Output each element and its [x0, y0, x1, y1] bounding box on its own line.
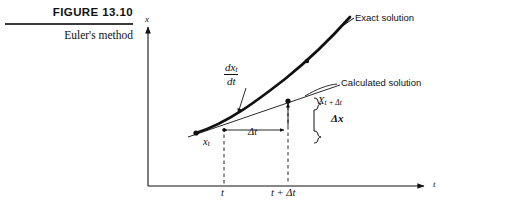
- y-axis-label: x: [145, 15, 149, 24]
- derivative-fraction-label: dxt dt: [224, 62, 238, 88]
- tick-label-t: t: [221, 188, 224, 199]
- point-exact-at-t-plus-dt: [305, 59, 309, 63]
- point-x-t-plus-dt: [285, 98, 290, 103]
- delta-x-label: Δx: [331, 113, 343, 124]
- delta-t-label: Δt: [248, 127, 257, 138]
- derivative-numerator-subscript: t: [235, 65, 237, 74]
- derivative-numerator: dxt: [224, 62, 238, 75]
- point-label-x-t-plus-dt: Xt + Δt: [318, 96, 342, 107]
- point-x-t: [193, 130, 198, 135]
- tick-label-t-plus-dt: t + Δt: [271, 188, 295, 199]
- derivative-numerator-text: dx: [225, 61, 235, 73]
- derivative-denominator: dt: [224, 75, 238, 88]
- exact-solution-curve: [196, 17, 350, 133]
- exact-solution-label: Exact solution: [355, 13, 414, 23]
- point-label-x-t-subscript: t: [208, 139, 210, 148]
- calculated-solution-label: Calculated solution: [341, 78, 421, 88]
- figure-page: FIGURE 13.10 Euler's method: [0, 0, 505, 216]
- plot-canvas: [0, 0, 505, 216]
- point-label-x-t-plus-dt-subscript: t + Δt: [324, 98, 341, 107]
- calculated-solution-line: [188, 85, 340, 137]
- x-axis-label: t: [433, 180, 436, 189]
- point-start-tick: [222, 128, 226, 132]
- euler-method-plot: x t Exact solution Calculated solution d…: [0, 0, 505, 216]
- point-label-x-t: xt: [203, 137, 210, 148]
